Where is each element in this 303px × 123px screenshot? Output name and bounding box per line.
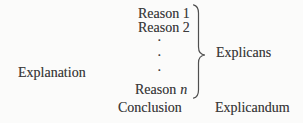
premise-reason-1: Reason 1 [138,7,190,21]
explanation-structure-diagram: Explanation Reason 1 Reason 2 · · · Reas… [0,0,303,123]
explicans-label: Explicans [216,46,271,60]
premise-reason-n-variable: n [180,82,187,97]
conclusion-label: Conclusion [118,101,182,115]
premise-reason-2: Reason 2 [138,21,190,35]
vertical-ellipsis-dot: · [157,49,162,63]
explicandum-label: Explicandum [215,101,290,115]
curly-brace-path [194,5,206,98]
vertical-ellipsis-dot: · [157,64,162,78]
premise-reason-n-prefix: Reason [135,82,176,97]
vertical-ellipsis-dot: · [157,34,162,48]
premise-reason-n: Reasonn [135,83,187,97]
explanation-label: Explanation [18,66,86,80]
right-curly-brace-icon [192,4,206,99]
